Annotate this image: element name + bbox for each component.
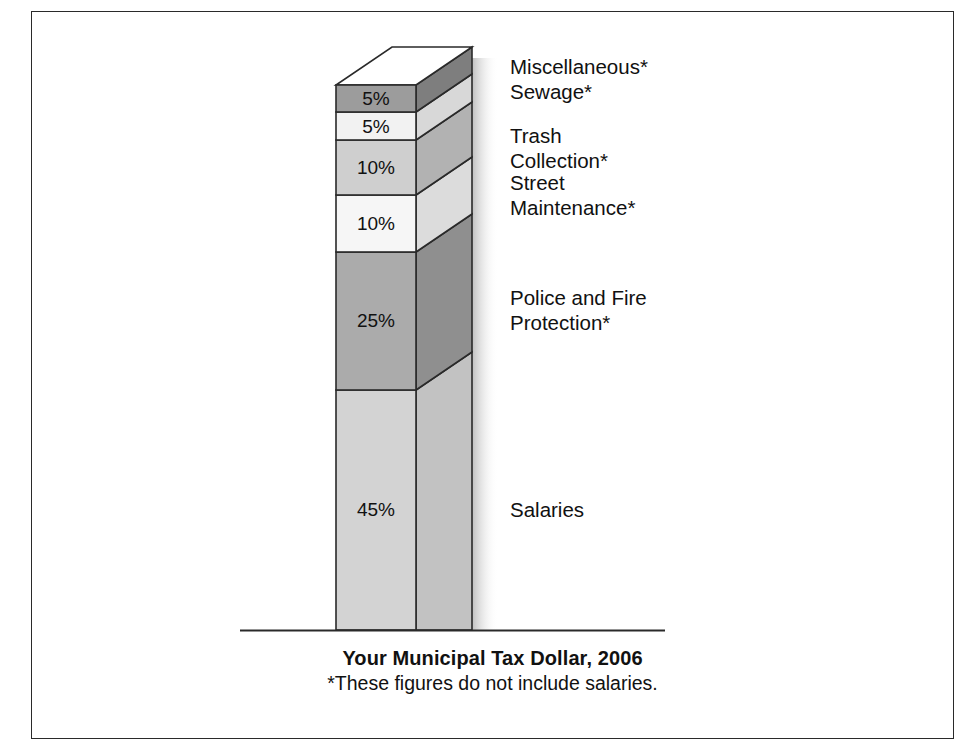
caption-footnote: *These figures do not include salaries. [31, 671, 954, 696]
segment-value-sewage: 5% [336, 117, 416, 136]
stacked-column-chart [0, 0, 970, 748]
figure-root: 5% 5% 10% 10% 25% 45% Miscellaneous* Sew… [0, 0, 970, 748]
column-drop-shadow [472, 58, 498, 630]
segment-value-salaries: 45% [336, 500, 416, 519]
category-label-salaries: Salaries [510, 497, 584, 522]
figure-caption: Your Municipal Tax Dollar, 2006 *These f… [31, 645, 954, 696]
caption-title: Your Municipal Tax Dollar, 2006 [31, 645, 954, 671]
chart-plot-area: 5% 5% 10% 10% 25% 45% Miscellaneous* Sew… [0, 0, 970, 748]
category-label-street: Street Maintenance* [510, 170, 635, 220]
segment-value-police: 25% [336, 311, 416, 330]
category-label-misc-sewage: Miscellaneous* Sewage* [510, 54, 648, 104]
segment-value-misc: 5% [336, 89, 416, 108]
segment-side-salaries [416, 352, 472, 630]
category-label-trash: Trash Collection* [510, 123, 608, 173]
segment-value-street: 10% [336, 214, 416, 233]
category-label-police: Police and Fire Protection* [510, 285, 647, 335]
segment-value-trash: 10% [336, 158, 416, 177]
